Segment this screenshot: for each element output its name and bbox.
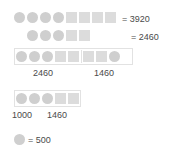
row-3-tick-left: 2460 bbox=[33, 68, 53, 78]
legend-circle-icon bbox=[14, 134, 25, 145]
row-4-tick-right: 1460 bbox=[47, 110, 67, 120]
circle-token bbox=[14, 12, 25, 23]
square-token bbox=[55, 51, 66, 62]
square-token bbox=[66, 12, 77, 23]
circle-token bbox=[27, 12, 38, 23]
row-2-total-label: = 2460 bbox=[131, 32, 159, 42]
square-token bbox=[66, 30, 77, 41]
circle-token bbox=[16, 93, 27, 104]
circle-token bbox=[29, 51, 40, 62]
row-1-total-label: = 3920 bbox=[122, 14, 150, 24]
circle-token bbox=[40, 30, 51, 41]
diagram-canvas: = 3920 = 2460 2460 1460 bbox=[0, 0, 184, 158]
row-3-partition-right bbox=[83, 50, 122, 63]
circle-token bbox=[29, 93, 40, 104]
circle-token bbox=[109, 51, 120, 62]
legend-value-label: = 500 bbox=[28, 135, 51, 145]
shape-row-4-group-box bbox=[14, 90, 81, 107]
shape-row-2 bbox=[27, 30, 92, 41]
square-token bbox=[83, 51, 94, 62]
legend: = 500 bbox=[14, 134, 51, 145]
row-3-partition-left bbox=[16, 50, 81, 63]
shape-row-3-group-box bbox=[14, 48, 133, 65]
square-token bbox=[79, 30, 90, 41]
row-3-tick-right: 1460 bbox=[94, 68, 114, 78]
shape-row-1 bbox=[14, 12, 118, 23]
row-4-partition-left bbox=[16, 92, 81, 105]
square-token bbox=[92, 12, 103, 23]
row-4-tick-left: 1000 bbox=[12, 110, 32, 120]
circle-token bbox=[42, 93, 53, 104]
circle-token bbox=[40, 12, 51, 23]
circle-token bbox=[53, 12, 64, 23]
circle-token bbox=[53, 30, 64, 41]
square-token bbox=[55, 93, 66, 104]
square-token bbox=[79, 12, 90, 23]
circle-token bbox=[16, 51, 27, 62]
circle-token bbox=[42, 51, 53, 62]
square-token bbox=[105, 12, 116, 23]
square-token bbox=[68, 51, 79, 62]
partition-divider bbox=[81, 50, 82, 63]
circle-token bbox=[27, 30, 38, 41]
square-token bbox=[68, 93, 79, 104]
square-token bbox=[96, 51, 107, 62]
